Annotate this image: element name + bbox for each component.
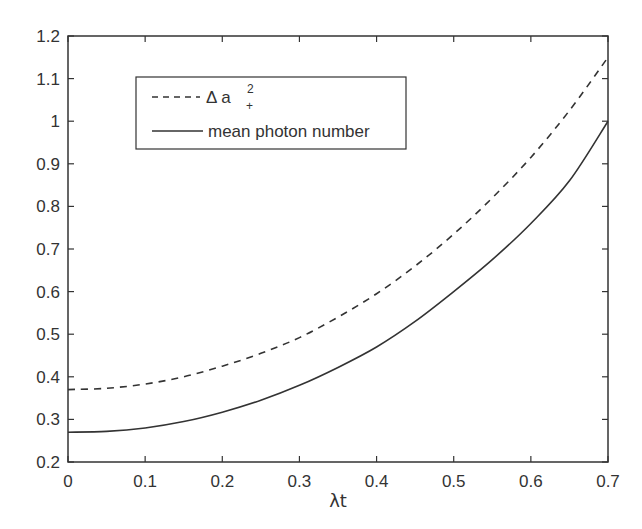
y-tick-label: 0.4 bbox=[36, 368, 60, 387]
x-tick-label: 0.5 bbox=[442, 472, 466, 491]
y-tick-label: 1 bbox=[51, 112, 60, 131]
x-tick-label: 0.4 bbox=[365, 472, 389, 491]
y-tick-label: 0.5 bbox=[36, 325, 60, 344]
legend-label-sup: 2 bbox=[247, 82, 254, 96]
legend-label-main: Δ a bbox=[206, 88, 231, 107]
x-tick-label: 0.1 bbox=[133, 472, 157, 491]
x-tick-label: 0.6 bbox=[519, 472, 543, 491]
x-axis-label: λt bbox=[329, 490, 347, 511]
series-mean-photon-number-line bbox=[68, 121, 608, 432]
x-tick-label: 0 bbox=[63, 472, 72, 491]
legend-label-sub: + bbox=[246, 99, 253, 113]
legend: Δ a 2 + mean photon number bbox=[136, 77, 406, 149]
legend-label-delta-a: Δ a bbox=[206, 88, 231, 107]
legend-label-mean-photon-number: mean photon number bbox=[208, 122, 370, 141]
x-tick-label: 0.7 bbox=[596, 472, 620, 491]
y-tick-label: 0.7 bbox=[36, 240, 60, 259]
y-tick-label: 0.8 bbox=[36, 197, 60, 216]
y-tick-label: 0.9 bbox=[36, 155, 60, 174]
y-tick-label: 1.1 bbox=[36, 70, 60, 89]
x-tick-label: 0.3 bbox=[288, 472, 312, 491]
y-tick-label: 1.2 bbox=[36, 27, 60, 46]
y-tick-label: 0.3 bbox=[36, 410, 60, 429]
y-tick-label: 0.6 bbox=[36, 283, 60, 302]
line-chart: 00.10.20.30.40.50.60.7 0.20.30.40.50.60.… bbox=[0, 0, 642, 529]
x-tick-label: 0.2 bbox=[210, 472, 234, 491]
y-tick-label: 0.2 bbox=[36, 453, 60, 472]
